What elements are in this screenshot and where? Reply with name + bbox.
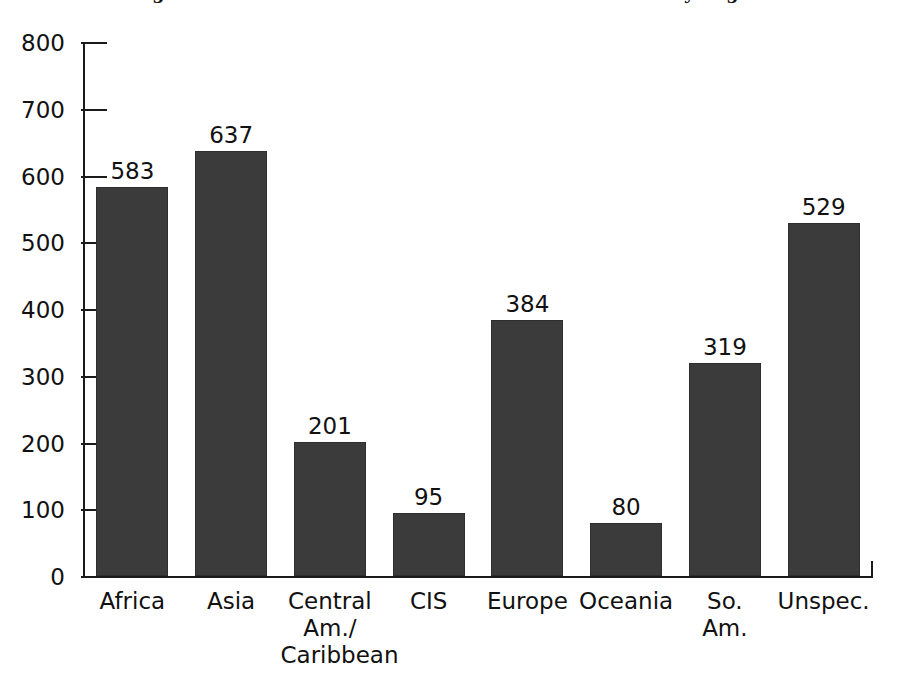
- x-axis-category-line: Asia: [182, 588, 281, 615]
- bar-value-label: 201: [308, 415, 352, 438]
- x-axis-category-label: Africa: [83, 588, 182, 615]
- bar[interactable]: 201: [294, 442, 366, 576]
- y-tick-label: 700: [21, 98, 65, 121]
- x-axis-category-line: Europe: [478, 588, 577, 615]
- x-axis-category-line: Am./: [281, 615, 380, 642]
- bar-chart-figure: Figure 1. Number of Full-Time Canadian M…: [0, 0, 903, 693]
- bar[interactable]: 384: [491, 320, 563, 576]
- x-axis-category-label: So.Am.: [676, 588, 775, 642]
- y-tick-label: 400: [21, 299, 65, 322]
- bar[interactable]: 95: [393, 513, 465, 576]
- x-axis-category-line: Unspec.: [774, 588, 873, 615]
- x-axis-category-line: CIS: [379, 588, 478, 615]
- bar[interactable]: 637: [195, 151, 267, 576]
- y-tick-label: 800: [21, 32, 65, 55]
- y-tick-800: 800: [81, 42, 107, 44]
- bar-value-label: 80: [611, 496, 640, 519]
- bar[interactable]: 529: [788, 223, 860, 576]
- y-tick-label: 100: [21, 499, 65, 522]
- x-axis-category-line: Africa: [83, 588, 182, 615]
- x-axis-category-line: Am.: [676, 615, 775, 642]
- bar-value-label: 95: [414, 486, 443, 509]
- x-axis-category-line: Central: [281, 588, 380, 615]
- y-tick-600: 600: [81, 176, 107, 178]
- y-tick-label: 200: [21, 432, 65, 455]
- x-axis-category-line: Oceania: [577, 588, 676, 615]
- y-tick-label: 600: [21, 165, 65, 188]
- x-axis-category-label: CentralAm./Caribbean: [281, 588, 380, 669]
- x-axis-category-label: Asia: [182, 588, 281, 615]
- x-axis-line: [83, 576, 873, 578]
- bar-value-label: 384: [505, 293, 549, 316]
- chart-title: Figure 1. Number of Full-Time Canadian M…: [0, 0, 903, 3]
- x-axis-category-label: Oceania: [577, 588, 676, 615]
- bar[interactable]: 319: [689, 363, 761, 576]
- y-tick-700: 700: [81, 109, 107, 111]
- bar-value-label: 319: [703, 336, 747, 359]
- x-axis-category-line: So.: [676, 588, 775, 615]
- y-tick-label: 300: [21, 365, 65, 388]
- x-axis-category-label: CIS: [379, 588, 478, 615]
- plot-area: 8007006005004003002001000 58363720195384…: [83, 42, 873, 578]
- y-tick-label: 500: [21, 232, 65, 255]
- y-tick-0: 0: [81, 576, 107, 578]
- y-tick-label: 0: [50, 566, 65, 589]
- x-axis-end-cap: [871, 561, 873, 578]
- bar-value-label: 583: [110, 160, 154, 183]
- bar-value-label: 637: [209, 124, 253, 147]
- x-axis-category-line: Caribbean: [281, 642, 380, 669]
- x-axis-category-label: Europe: [478, 588, 577, 615]
- x-axis-category-label: Unspec.: [774, 588, 873, 615]
- bar-value-label: 529: [802, 196, 846, 219]
- bar[interactable]: 583: [96, 187, 168, 576]
- bar[interactable]: 80: [590, 523, 662, 576]
